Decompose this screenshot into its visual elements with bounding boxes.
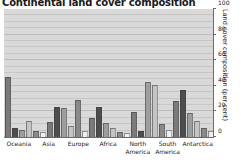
bar[interactable] <box>47 122 53 137</box>
bar[interactable] <box>173 101 179 137</box>
bar[interactable] <box>68 126 74 137</box>
chart-figure: Continental land cover composition Ocean… <box>0 0 241 163</box>
bar[interactable] <box>5 77 11 137</box>
bar[interactable] <box>26 121 32 137</box>
x-axis-tick-label: Africa <box>93 139 123 161</box>
bar[interactable] <box>12 128 18 137</box>
bar-groups <box>4 9 213 137</box>
x-axis-tick-label: NorthAmerica <box>123 139 153 161</box>
x-axis-tick-label: Antarctica <box>182 139 213 161</box>
y-axis-line <box>213 9 214 137</box>
bar[interactable] <box>187 113 193 137</box>
y-axis-title: Land cover composition (per cent) <box>219 9 229 137</box>
x-axis-tick-label: Europe <box>63 139 93 161</box>
chart-title: Continental land cover composition <box>2 0 202 8</box>
bar-group <box>130 9 172 137</box>
bar[interactable] <box>110 128 116 137</box>
y-axis-tick-label: 100 <box>218 0 229 6</box>
x-axis-tick-label: Asia <box>34 139 64 161</box>
x-axis-tick-label: Oceania <box>4 139 34 161</box>
bar-group <box>88 9 130 137</box>
bar[interactable] <box>152 85 158 137</box>
y-axis-tick <box>213 85 216 86</box>
bar-group <box>46 9 88 137</box>
bar-group <box>172 9 213 137</box>
bar[interactable] <box>96 107 102 137</box>
bar[interactable] <box>201 128 207 137</box>
bar[interactable] <box>180 90 186 137</box>
bar[interactable] <box>131 112 137 137</box>
bar[interactable] <box>103 123 109 137</box>
bar[interactable] <box>194 121 200 137</box>
y-axis-tick <box>213 34 216 35</box>
bar-group <box>4 9 46 137</box>
bar[interactable] <box>145 82 151 137</box>
y-axis-tick <box>213 110 216 111</box>
bar[interactable] <box>75 100 81 137</box>
bar[interactable] <box>19 130 25 137</box>
x-axis-tick-label: SouthAmerica <box>153 139 183 161</box>
y-axis-tick <box>213 59 216 60</box>
bar[interactable] <box>54 107 60 137</box>
bar[interactable] <box>166 130 172 137</box>
x-axis-tick-labels: OceaniaAsiaEuropeAfricaNorthAmericaSouth… <box>4 139 213 161</box>
y-axis-tick <box>213 136 216 137</box>
bar[interactable] <box>159 124 165 137</box>
bar[interactable] <box>89 118 95 137</box>
x-axis-line <box>4 137 214 138</box>
bar[interactable] <box>61 108 67 137</box>
y-axis-tick <box>213 8 216 9</box>
plot-area <box>4 9 213 137</box>
